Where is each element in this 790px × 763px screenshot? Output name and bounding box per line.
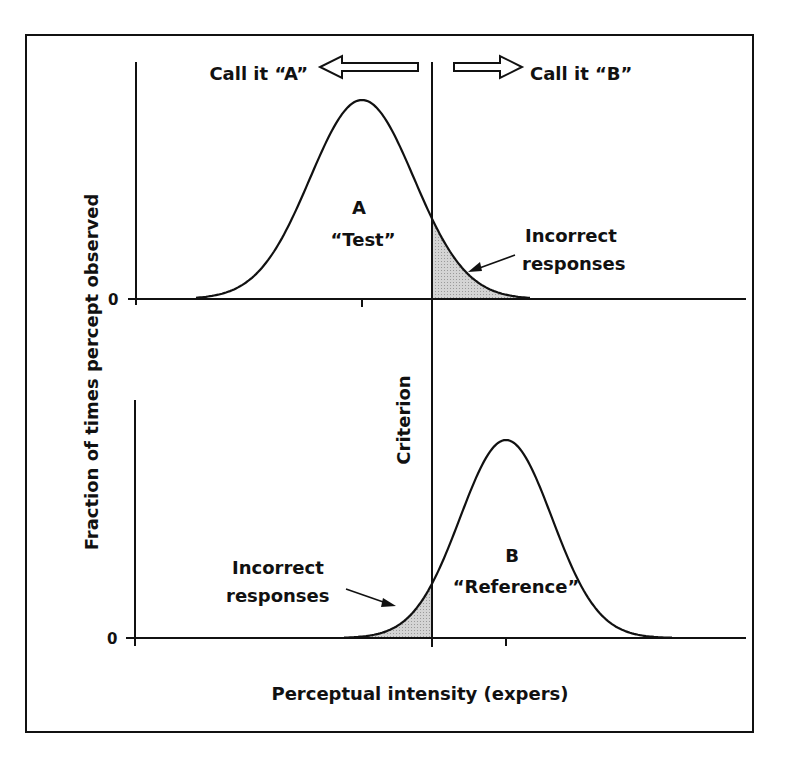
top-panel: 0 A “Test” Incorrect responses xyxy=(108,62,746,309)
top-zero-label: 0 xyxy=(108,291,118,309)
y-axis-title: Fraction of times percept observed xyxy=(81,194,102,551)
curve-b xyxy=(344,440,672,638)
curve-a-letter: A xyxy=(352,197,366,218)
left-hollow-arrow-icon xyxy=(320,56,418,78)
bottom-incorrect-line2: responses xyxy=(226,585,330,606)
criterion-label: Criterion xyxy=(393,375,414,464)
top-incorrect-arrowhead xyxy=(468,262,482,272)
curve-b-name: “Reference” xyxy=(453,576,580,597)
top-incorrect-shade xyxy=(432,219,530,299)
bottom-incorrect-line1: Incorrect xyxy=(232,557,324,578)
call-it-a-label: Call it “A” xyxy=(209,63,308,84)
right-hollow-arrow-icon xyxy=(454,56,522,78)
signal-detection-figure: 0 A “Test” Incorrect responses 0 B “Refe… xyxy=(0,0,790,763)
x-axis-title: Perceptual intensity (expers) xyxy=(271,683,568,704)
bottom-incorrect-arrowhead xyxy=(381,598,396,607)
bottom-panel: 0 B “Reference” Incorrect responses xyxy=(107,400,746,648)
bottom-zero-label: 0 xyxy=(107,630,117,648)
curve-b-letter: B xyxy=(505,545,519,566)
call-it-b-label: Call it “B” xyxy=(530,63,632,84)
top-incorrect-line1: Incorrect xyxy=(525,225,617,246)
top-incorrect-line2: responses xyxy=(522,253,626,274)
curve-a-name: “Test” xyxy=(330,229,395,250)
